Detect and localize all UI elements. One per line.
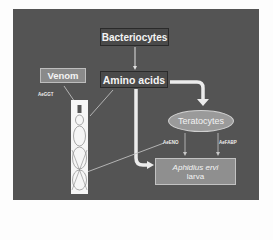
node-label-larva: larva — [187, 172, 204, 181]
node-bacteriocytes: Bacteriocytes — [100, 28, 169, 46]
arrow-amino-terato — [170, 82, 203, 100]
arrowhead-icon — [197, 99, 209, 106]
aphid-ovariole-icon — [71, 100, 88, 194]
node-aphidius-larva: Aphidius ervi larva — [155, 158, 236, 185]
node-amino-acids: Amino acids — [100, 71, 168, 88]
node-label: Amino acids — [103, 74, 165, 86]
label-aeggt: AeGGT — [38, 92, 54, 97]
line-eno-host — [87, 143, 164, 172]
arrowhead-icon — [133, 66, 137, 70]
arrowhead-icon — [183, 152, 187, 156]
node-label: Bacteriocytes — [102, 32, 168, 43]
arrow-amino-larva — [136, 89, 148, 165]
label-aefabp: AeFABP — [219, 140, 237, 145]
node-venom: Venom — [40, 68, 86, 83]
label-aeeno: AeENO — [163, 140, 179, 145]
node-label: Venom — [47, 70, 78, 81]
node-label: Teratocytes — [178, 116, 224, 126]
arrowhead-icon — [216, 152, 220, 156]
arrowhead-icon — [147, 161, 154, 169]
host-illustration — [71, 100, 88, 194]
node-label-species: Aphidius ervi — [173, 163, 219, 172]
line-amino-host — [90, 90, 113, 116]
node-teratocytes: Teratocytes — [168, 110, 234, 132]
